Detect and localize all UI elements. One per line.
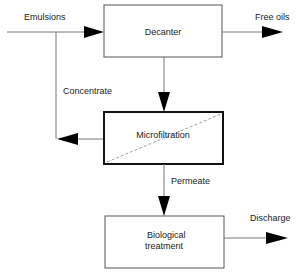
emulsions-arrowhead	[84, 26, 104, 38]
emulsions-label: Emulsions	[24, 12, 66, 22]
biological-label-line1: Biological	[147, 230, 186, 240]
decanter-label: Decanter	[145, 27, 182, 37]
concentrate-label: Concentrate	[63, 86, 112, 96]
discharge-label: Discharge	[250, 213, 291, 223]
biological-label-line2: treatment	[145, 241, 184, 251]
microfiltration-label: Microfiltration	[136, 130, 190, 140]
permeate-arrowhead	[158, 196, 170, 216]
discharge-arrowhead	[266, 232, 288, 244]
free-oils-arrowhead	[262, 26, 283, 38]
decanter-to-microfiltration-arrowhead	[158, 92, 170, 112]
permeate-label: Permeate	[171, 176, 210, 186]
free-oils-label: Free oils	[255, 12, 290, 22]
concentrate-arrowhead	[57, 133, 78, 145]
process-flow-diagram: Emulsions Decanter Free oils Concentrate…	[0, 0, 296, 272]
